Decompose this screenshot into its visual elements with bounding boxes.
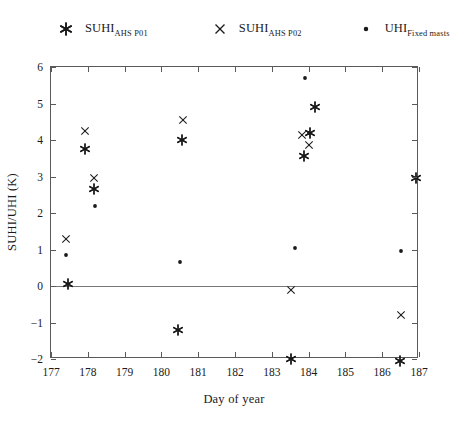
y-axis-tick-label: 3	[37, 171, 43, 183]
x-axis-tick	[345, 352, 346, 357]
legend-entry-dot: UHIFixed masts	[356, 19, 450, 39]
x-axis-tick	[309, 352, 310, 357]
y-axis-tick	[51, 104, 56, 105]
legend-label: SUHIAHS P02	[239, 21, 302, 38]
legend-label-base: SUHI	[85, 21, 115, 35]
y-axis-tick-label: 5	[37, 98, 43, 110]
y-axis-tick-right	[412, 359, 417, 360]
x-axis-tick-top	[198, 67, 199, 72]
asterisk-marker-icon	[56, 19, 76, 39]
chart-legend: SUHIAHS P01SUHIAHS P02UHIFixed masts	[0, 14, 452, 44]
x-axis-tick-label: 184	[300, 366, 317, 378]
x-axis-tick	[419, 352, 420, 357]
x-axis-tick	[235, 352, 236, 357]
x-axis-tick-label: 177	[42, 366, 59, 378]
y-axis-tick-right	[412, 286, 417, 287]
y-axis-tick-label: 4	[37, 134, 43, 146]
y-axis-tick-right	[412, 250, 417, 251]
x-axis-tick-label: 181	[190, 366, 207, 378]
x-axis-tick-label: 180	[153, 366, 170, 378]
x-axis-title: Day of year	[50, 392, 418, 407]
x-axis-tick	[161, 352, 162, 357]
x-axis-tick-top	[125, 67, 126, 72]
y-axis-tick-right	[412, 104, 417, 105]
y-axis-tick-right	[412, 140, 417, 141]
y-axis-tick-right	[412, 323, 417, 324]
dot-marker-icon	[356, 19, 376, 39]
x-axis-tick-label: 178	[79, 366, 96, 378]
y-axis-tick-label: 0	[37, 280, 43, 292]
x-axis-tick-top	[51, 67, 52, 72]
legend-label-subscript: Fixed masts	[407, 28, 449, 37]
y-axis-tick	[51, 323, 56, 324]
x-axis-tick-top	[419, 67, 420, 72]
legend-label-subscript: AHS P02	[268, 28, 301, 37]
x-axis-tick-label: 179	[116, 366, 133, 378]
legend-entry-cross: SUHIAHS P02	[210, 19, 302, 39]
y-axis-tick-label: 2	[37, 207, 43, 219]
x-axis-tick-label: 186	[374, 366, 391, 378]
x-axis-tick-label: 187	[410, 366, 427, 378]
x-axis-tick	[125, 352, 126, 357]
legend-entry-asterisk: SUHIAHS P01	[56, 19, 148, 39]
scatter-chart-figure: SUHIAHS P01SUHIAHS P02UHIFixed masts −2−…	[0, 0, 452, 427]
x-axis-tick-top	[309, 67, 310, 72]
x-axis-tick-top	[88, 67, 89, 72]
x-axis-tick-top	[382, 67, 383, 72]
y-axis-tick	[51, 286, 56, 287]
y-axis-tick	[51, 213, 56, 214]
x-axis-tick-label: 183	[263, 366, 280, 378]
x-axis-tick-top	[345, 67, 346, 72]
y-axis-title: SUHI/UHI (K)	[4, 66, 20, 358]
x-axis-tick-label: 182	[226, 366, 243, 378]
x-axis-tick-top	[235, 67, 236, 72]
y-axis-tick-label: 6	[37, 61, 43, 73]
y-axis-tick	[51, 177, 56, 178]
cross-marker-icon	[210, 19, 230, 39]
x-axis-tick-top	[161, 67, 162, 72]
y-axis-tick-right	[412, 67, 417, 68]
x-axis-tick	[382, 352, 383, 357]
legend-label-subscript: AHS P01	[115, 28, 148, 37]
plot-area: −2−1012345617717817918018118218318418518…	[50, 66, 418, 358]
y-axis-tick	[51, 250, 56, 251]
y-axis-tick	[51, 140, 56, 141]
data-points-layer	[51, 67, 417, 357]
x-axis-tick	[88, 352, 89, 357]
legend-label: SUHIAHS P01	[85, 21, 148, 38]
y-axis-tick-right	[412, 213, 417, 214]
y-axis-tick-label: −2	[31, 353, 43, 365]
x-axis-tick-label: 185	[337, 366, 354, 378]
x-axis-tick-top	[272, 67, 273, 72]
y-axis-tick-label: −1	[31, 317, 43, 329]
y-axis-tick	[51, 359, 56, 360]
y-axis-tick-label: 1	[37, 244, 43, 256]
legend-label: UHIFixed masts	[385, 21, 450, 38]
y-axis-tick-right	[412, 177, 417, 178]
x-axis-tick	[51, 352, 52, 357]
legend-label-base: SUHI	[239, 21, 269, 35]
x-axis-tick	[272, 352, 273, 357]
x-axis-tick	[198, 352, 199, 357]
legend-label-base: UHI	[385, 21, 408, 35]
